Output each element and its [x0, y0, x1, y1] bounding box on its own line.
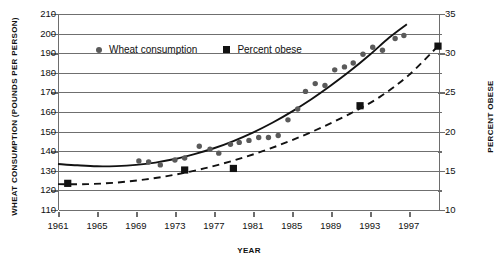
y-axis-right-minor-tickmark — [438, 190, 442, 191]
x-axis-tick-label: 1989 — [311, 220, 351, 231]
legend-item-wheat-consumption: Wheat consumption — [96, 44, 197, 55]
square-marker-icon — [223, 46, 230, 53]
x-axis-tickmark — [253, 212, 255, 217]
x-axis-tick-label: 1961 — [38, 220, 78, 231]
x-axis-tick-label: 1997 — [389, 220, 429, 231]
y-axis-right-title: PERCENT OBESE — [486, 37, 495, 197]
gridline — [59, 132, 439, 133]
y-axis-left-tick-label: 210 — [30, 8, 56, 19]
y-axis-right-tickmark — [438, 132, 445, 133]
chart-legend: Wheat consumption Percent obese — [96, 44, 302, 55]
x-axis-tick-label: 1965 — [77, 220, 117, 231]
y-axis-right-minor-tickmark — [438, 151, 442, 152]
y-axis-right-tickmark — [438, 92, 445, 93]
gridline — [59, 190, 439, 191]
legend-label-percent-obese: Percent obese — [237, 44, 302, 55]
x-axis-tickmark — [292, 212, 294, 217]
y-axis-right-tick-label: 10 — [445, 204, 471, 215]
x-axis-tickmark — [214, 212, 216, 217]
y-axis-left-tick-label: 150 — [30, 126, 56, 137]
y-axis-right-tick-label: 35 — [445, 8, 471, 19]
y-axis-left-tick-label: 130 — [30, 165, 56, 176]
y-axis-right-tick-label: 15 — [445, 165, 471, 176]
x-axis-title: YEAR — [0, 246, 498, 255]
gridline — [59, 151, 439, 152]
y-axis-left-tick-label: 160 — [30, 106, 56, 117]
x-axis-tickmark — [331, 212, 333, 217]
gridline — [59, 73, 439, 74]
x-axis-tickmark — [136, 212, 138, 217]
y-axis-left-tick-label: 120 — [30, 184, 56, 195]
y-axis-right-minor-tickmark — [438, 112, 442, 113]
y-axis-right-tickmark — [438, 171, 445, 172]
y-axis-right-tick-label: 25 — [445, 86, 471, 97]
y-axis-right-tick-label: 30 — [445, 47, 471, 58]
y-axis-right-tickmark — [438, 53, 445, 54]
y-axis-left-tick-label: 180 — [30, 67, 56, 78]
cropped-title-remnant — [0, 0, 498, 6]
gridline — [59, 210, 439, 211]
x-axis-tickmark — [58, 212, 60, 217]
y-axis-left-title: WHEAT CONSUMPTION (POUNDS PER PERSON) — [10, 17, 19, 217]
x-axis-tickmark — [370, 212, 372, 217]
gridline — [59, 171, 439, 172]
gridline — [59, 112, 439, 113]
y-axis-left-tick-label: 110 — [30, 204, 56, 215]
gridline — [59, 14, 439, 15]
x-axis-tickmark — [97, 212, 99, 217]
gridline — [59, 92, 439, 93]
x-axis-tick-label: 1981 — [233, 220, 273, 231]
x-axis-tick-label: 1977 — [194, 220, 234, 231]
legend-item-percent-obese: Percent obese — [223, 44, 302, 55]
x-axis-tickmark — [175, 212, 177, 217]
y-axis-right-tickmark — [438, 210, 445, 211]
legend-label-wheat-consumption: Wheat consumption — [109, 44, 197, 55]
x-axis-tick-label: 1993 — [350, 220, 390, 231]
x-axis-tick-label: 1973 — [155, 220, 195, 231]
x-axis-tick-label: 1969 — [116, 220, 156, 231]
y-axis-left-tick-label: 190 — [30, 47, 56, 58]
y-axis-left-tick-label: 170 — [30, 86, 56, 97]
circle-marker-icon — [96, 47, 102, 53]
x-axis-tick-label: 1985 — [272, 220, 312, 231]
y-axis-right-minor-tickmark — [438, 34, 442, 35]
y-axis-right-tickmark — [438, 14, 445, 15]
y-axis-left-tick-label: 200 — [30, 28, 56, 39]
y-axis-right-minor-tickmark — [438, 73, 442, 74]
gridline — [59, 34, 439, 35]
y-axis-right-tick-label: 20 — [445, 126, 471, 137]
y-axis-left-tick-label: 140 — [30, 145, 56, 156]
dual-axis-chart: WHEAT CONSUMPTION (POUNDS PER PERSON) PE… — [0, 0, 498, 262]
x-axis-tickmark — [409, 212, 411, 217]
